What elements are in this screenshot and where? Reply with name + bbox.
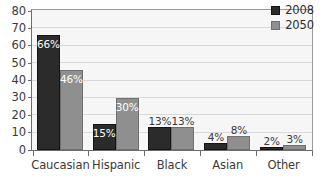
x-category-label-asian: Asian	[212, 158, 243, 172]
chart-legend: 20082050	[271, 5, 314, 31]
x-tick-mark	[312, 151, 313, 156]
bar-hispanic-2008[interactable]: 15%	[93, 124, 116, 150]
bar-asian-2008[interactable]: 4%	[204, 143, 227, 150]
bar-value-label: 46%	[60, 73, 83, 85]
bar-value-label: 13%	[149, 115, 172, 127]
legend-swatch-icon	[271, 6, 280, 15]
bar-black-2050[interactable]: 13%	[171, 127, 194, 150]
y-tick-label: 30	[0, 90, 26, 104]
bar-group: 66%46%	[32, 10, 88, 150]
legend-label: 2008	[285, 5, 314, 17]
bar-caucasian-2050[interactable]: 46%	[60, 70, 83, 150]
bar-other-2008[interactable]: 2%	[260, 147, 283, 150]
bar-group: 4%8%	[199, 10, 255, 150]
y-tick-mark	[28, 63, 32, 64]
y-tick-mark	[28, 28, 32, 29]
bar-hispanic-2050[interactable]: 30%	[116, 98, 139, 150]
x-category-label-other: Other	[268, 158, 300, 172]
bar-group: 13%13%	[144, 10, 200, 150]
bar-group: 15%30%	[88, 10, 144, 150]
x-category-label-black: Black	[157, 158, 188, 172]
y-tick-mark	[28, 97, 32, 98]
bar-value-label: 13%	[172, 115, 195, 127]
bar-value-label: 2%	[263, 135, 279, 147]
y-tick-label: 10	[0, 125, 26, 139]
x-tick-mark	[200, 151, 201, 156]
y-tick-label: 80	[0, 4, 26, 18]
bar-value-label: 3%	[286, 133, 302, 145]
bar-other-2050[interactable]: 3%	[283, 145, 306, 150]
legend-entry-2008[interactable]: 2008	[271, 5, 314, 17]
y-axis: 01020304050607080	[0, 0, 26, 176]
y-tick-mark	[28, 11, 32, 12]
y-tick-label: 50	[0, 56, 26, 70]
bar-asian-2050[interactable]: 8%	[227, 136, 250, 150]
legend-label: 2050	[285, 20, 314, 32]
bar-value-label: 15%	[93, 127, 116, 139]
y-tick-mark	[28, 80, 32, 81]
y-tick-label: 0	[0, 143, 26, 157]
bar-black-2008[interactable]: 13%	[148, 127, 171, 150]
bars-layer: 66%46%15%30%13%13%4%8%2%3%	[32, 10, 312, 150]
y-tick-mark	[28, 45, 32, 46]
x-category-label-caucasian: Caucasian	[31, 158, 89, 172]
legend-entry-2050[interactable]: 2050	[271, 20, 314, 32]
y-tick-label: 60	[0, 38, 26, 52]
y-tick-label: 40	[0, 73, 26, 87]
bar-value-label: 66%	[37, 38, 60, 50]
grouped-bar-chart: 01020304050607080 66%46%15%30%13%13%4%8%…	[0, 0, 324, 176]
y-tick-mark	[28, 115, 32, 116]
y-tick-mark	[28, 150, 32, 151]
y-tick-label: 70	[0, 21, 26, 35]
y-tick-mark	[28, 132, 32, 133]
x-tick-mark	[33, 151, 34, 156]
x-tick-mark	[144, 151, 145, 156]
bar-value-label: 4%	[208, 131, 224, 143]
bar-caucasian-2008[interactable]: 66%	[37, 35, 60, 150]
y-tick-label: 20	[0, 108, 26, 122]
bar-value-label: 8%	[231, 124, 247, 136]
legend-swatch-icon	[271, 21, 280, 30]
x-tick-mark	[256, 151, 257, 156]
bar-value-label: 30%	[116, 101, 139, 113]
x-tick-mark	[88, 151, 89, 156]
x-category-label-hispanic: Hispanic	[92, 158, 140, 172]
